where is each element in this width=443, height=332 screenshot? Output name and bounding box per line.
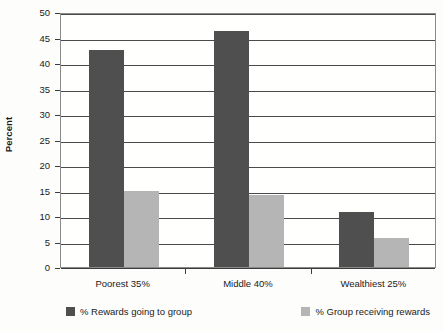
bar-chart-figure: Percent 05101520253035404550 Poorest 35%… bbox=[0, 0, 443, 332]
y-tick-mark-0 bbox=[55, 268, 60, 269]
y-tick-label-25: 25 bbox=[4, 136, 50, 146]
bar-1-0 bbox=[214, 31, 249, 267]
bar-2-1 bbox=[374, 238, 409, 267]
gridline-50 bbox=[61, 14, 435, 15]
chart-legend: % Rewards going to group % Group receivi… bbox=[60, 306, 436, 317]
x-axis-label-0: Poorest 35% bbox=[60, 278, 185, 289]
y-tick-label-10: 10 bbox=[4, 212, 50, 222]
legend-label-series-0: % Rewards going to group bbox=[80, 306, 192, 317]
gridline-0 bbox=[61, 268, 435, 269]
x-tick-mark-1 bbox=[185, 268, 186, 274]
y-tick-label-0: 0 bbox=[4, 263, 50, 273]
x-axis-label-2: Wealthiest 25% bbox=[311, 278, 436, 289]
y-tick-label-5: 5 bbox=[4, 238, 50, 248]
legend-entry-group-receiving-rewards: % Group receiving rewards bbox=[301, 306, 430, 317]
y-tick-label-50: 50 bbox=[4, 8, 50, 18]
legend-swatch-icon-series-1 bbox=[301, 307, 310, 316]
y-tick-label-35: 35 bbox=[4, 85, 50, 95]
bar-1-1 bbox=[249, 195, 284, 267]
x-tick-mark-2 bbox=[311, 268, 312, 274]
bar-2-0 bbox=[339, 212, 374, 267]
y-tick-label-40: 40 bbox=[4, 59, 50, 69]
legend-entry-rewards-going-to-group: % Rewards going to group bbox=[66, 306, 192, 317]
bar-0-1 bbox=[124, 191, 159, 268]
legend-swatch-icon-series-0 bbox=[66, 307, 75, 316]
y-tick-label-30: 30 bbox=[4, 110, 50, 120]
plot-area bbox=[60, 13, 436, 268]
y-tick-label-20: 20 bbox=[4, 161, 50, 171]
y-tick-label-15: 15 bbox=[4, 187, 50, 197]
y-axis-title-text: Percent bbox=[4, 116, 15, 152]
legend-label-series-1: % Group receiving rewards bbox=[315, 306, 430, 317]
y-tick-label-45: 45 bbox=[4, 34, 50, 44]
x-axis-label-1: Middle 40% bbox=[185, 278, 310, 289]
bar-0-0 bbox=[89, 50, 124, 267]
